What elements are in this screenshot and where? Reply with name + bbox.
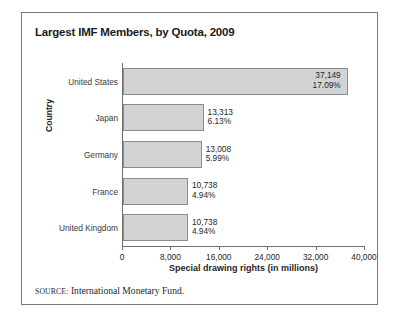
bar-share-value: 6.13% <box>208 117 233 127</box>
source-note: SOURCE: International Monetary Fund. <box>35 285 184 296</box>
x-tick-label: 32,000 <box>303 252 328 262</box>
bar-row <box>123 104 204 131</box>
bar <box>123 104 204 131</box>
x-tick-label: 16,000 <box>206 252 231 262</box>
source-label: SOURCE: <box>35 287 68 296</box>
plot-area: 37,14917.09%13,3136.13%13,0085.99%10,738… <box>122 63 364 246</box>
category-label: Germany <box>84 150 118 160</box>
bar-share-value: 17.09% <box>122 81 341 91</box>
category-label: United Kingdom <box>59 223 118 233</box>
x-axis-title: Special drawing rights (in millions) <box>122 263 365 273</box>
x-tick-mark <box>364 246 365 250</box>
x-tick-mark <box>267 246 268 250</box>
bar-value-label: 13,0085.99% <box>206 145 231 164</box>
x-tick-mark <box>219 246 220 250</box>
bar <box>123 141 202 168</box>
bar-value-label: 10,7384.94% <box>192 181 217 200</box>
bar-row <box>123 214 188 241</box>
x-axis-line <box>122 246 365 247</box>
bar-share-value: 4.94% <box>192 191 217 201</box>
bar-row <box>123 141 202 168</box>
x-tick-mark <box>170 246 171 250</box>
bar-value-label: 10,7384.94% <box>192 218 217 237</box>
bar-share-value: 5.99% <box>206 154 231 164</box>
figure-container: Largest IMF Members, by Quota, 2009 Coun… <box>21 12 378 305</box>
x-tick-label: 0 <box>120 252 125 262</box>
bar-value-label: 37,14917.09% <box>122 71 341 90</box>
category-label: Japan <box>95 113 118 123</box>
category-label: France <box>92 187 118 197</box>
x-tick-label: 40,000 <box>351 252 376 262</box>
x-tick-label: 8,000 <box>160 252 181 262</box>
bar <box>123 178 188 205</box>
x-tick-mark <box>316 246 317 250</box>
y-axis-title: Country <box>44 99 54 132</box>
bar-value-label: 13,3136.13% <box>208 108 233 127</box>
x-tick-label: 24,000 <box>254 252 279 262</box>
source-text: International Monetary Fund. <box>71 285 184 296</box>
bar <box>123 214 188 241</box>
bar-row <box>123 178 188 205</box>
bar-quota-value: 37,149 <box>122 71 341 81</box>
bar-share-value: 4.94% <box>192 227 217 237</box>
chart-title: Largest IMF Members, by Quota, 2009 <box>35 26 234 38</box>
category-label-column: United StatesJapanGermanyFranceUnited Ki… <box>56 63 118 246</box>
category-label: United States <box>68 77 118 87</box>
x-tick-mark <box>122 246 123 250</box>
